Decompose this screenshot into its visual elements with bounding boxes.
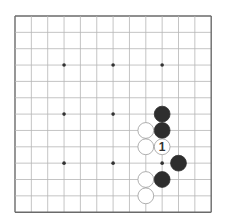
star-point-icon bbox=[160, 63, 164, 67]
white-stone[interactable] bbox=[138, 123, 154, 139]
move-number-label: 1 bbox=[159, 140, 166, 154]
white-stone[interactable] bbox=[138, 172, 154, 188]
black-stone[interactable] bbox=[154, 106, 170, 122]
star-point-icon bbox=[160, 161, 164, 165]
black-stone[interactable] bbox=[154, 172, 170, 188]
star-point-icon bbox=[111, 63, 115, 67]
black-stone[interactable] bbox=[154, 123, 170, 139]
go-board[interactable]: 1 bbox=[0, 0, 226, 224]
star-point-icon bbox=[111, 112, 115, 116]
black-stone[interactable] bbox=[171, 155, 187, 171]
white-stone[interactable]: 1 bbox=[154, 139, 170, 155]
white-stone[interactable] bbox=[138, 139, 154, 155]
white-stone[interactable] bbox=[138, 188, 154, 204]
star-point-icon bbox=[62, 161, 66, 165]
star-point-icon bbox=[62, 112, 66, 116]
star-point-icon bbox=[62, 63, 66, 67]
star-point-icon bbox=[111, 161, 115, 165]
